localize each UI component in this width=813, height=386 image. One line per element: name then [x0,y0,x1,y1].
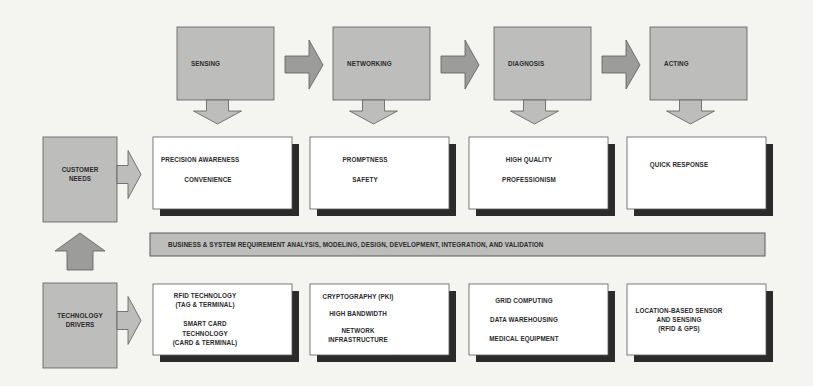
customer-needs-label: NEEDS [69,175,91,182]
box-text-line: AND SENSING [657,316,702,323]
right-arrow-icon [602,40,640,89]
box-text-line: MEDICAL EQUIPMENT [489,335,559,343]
box-text-line: DATA WAREHOUSING [490,316,558,323]
box-text-line: INFRASTRUCTURE [328,336,387,343]
box-text-line: NETWORK [341,327,375,334]
technology-drivers-row: TECHNOLOGYDRIVERSRFID TECHNOLOGY(TAG & T… [43,283,773,368]
right-arrow-icon [285,40,323,89]
down-arrow-icon [511,100,559,124]
box-text-line: SAFETY [352,176,378,183]
technology-drivers-label: DRIVERS [66,321,95,328]
box-frame [627,137,766,209]
box-text-line: (RFID & GPS) [658,325,699,333]
box-text-line: (TAG & TERMINAL) [175,301,234,309]
up-arrow-icon [55,233,105,270]
box-text-line: (CARD & TERMINAL) [173,339,238,347]
box-text-line: QUICK RESPONSE [650,161,708,169]
box-text-line: PROFESSIONISM [502,176,556,183]
box-text-line: PROMPTNESS [342,156,387,163]
stage-acting: ACTING [650,27,747,124]
customer-needs: CUSTOMERNEEDS [43,137,141,222]
down-arrow-icon [350,100,398,124]
stage-label: DIAGNOSIS [508,60,544,67]
need-box: QUICK RESPONSE [627,137,773,216]
need-box: HIGH QUALITYPROFESSIONISM [469,137,615,216]
box-text-line: RFID TECHNOLOGY [174,292,237,299]
box-text-line: SMART CARD [183,320,227,327]
requirement-bar-label: BUSINESS & SYSTEM REQUIREMENT ANALYSIS, … [168,241,544,249]
box-frame [310,137,449,209]
stage-label: ACTING [664,60,689,67]
box-text-line: CRYPTOGRAPHY (PKI) [323,293,394,301]
stage-diagnosis: DIAGNOSIS [494,27,640,124]
box-text-line: PRECISION AWARENESS [161,156,239,163]
box-text-line: LOCATION-BASED SENSOR [636,307,723,314]
down-arrow-icon [194,100,242,124]
stages-row: SENSINGNETWORKINGDIAGNOSISACTING [177,27,747,124]
customer-needs-label: CUSTOMER [62,166,99,173]
driver-box: LOCATION-BASED SENSORAND SENSING(RFID & … [627,284,773,362]
down-arrow-icon [667,100,715,124]
box-frame [153,137,292,209]
driver-box: CRYPTOGRAPHY (PKI)HIGH BANDWIDTHNETWORKI… [310,284,456,362]
need-box: PROMPTNESSSAFETY [310,137,456,216]
diagram: SENSINGNETWORKINGDIAGNOSISACTING CUSTOME… [0,0,813,386]
right-arrow-icon [117,297,141,345]
driver-box: GRID COMPUTINGDATA WAREHOUSINGMEDICAL EQ… [469,284,615,362]
need-box: PRECISION AWARENESSCONVENIENCE [153,137,299,216]
box-text-line: CONVENIENCE [184,176,231,183]
stage-networking: NETWORKING [333,27,479,124]
technology-drivers: TECHNOLOGYDRIVERS [43,283,141,368]
customer-needs-row: CUSTOMERNEEDSPRECISION AWARENESSCONVENIE… [43,137,773,222]
stage-sensing: SENSING [177,27,323,124]
box-text-line: HIGH BANDWIDTH [329,310,387,317]
driver-box: RFID TECHNOLOGY(TAG & TERMINAL)SMART CAR… [153,284,299,362]
right-arrow-icon [117,151,141,199]
box-text-line: GRID COMPUTING [495,297,552,304]
right-arrow-icon [441,40,479,89]
requirement-bar: BUSINESS & SYSTEM REQUIREMENT ANALYSIS, … [150,233,765,256]
box-text-line: TECHNOLOGY [182,330,228,337]
stage-label: SENSING [191,60,220,67]
technology-drivers-label: TECHNOLOGY [57,312,103,319]
stage-label: NETWORKING [347,60,392,67]
box-frame [469,137,608,209]
box-text-line: HIGH QUALITY [506,156,553,164]
